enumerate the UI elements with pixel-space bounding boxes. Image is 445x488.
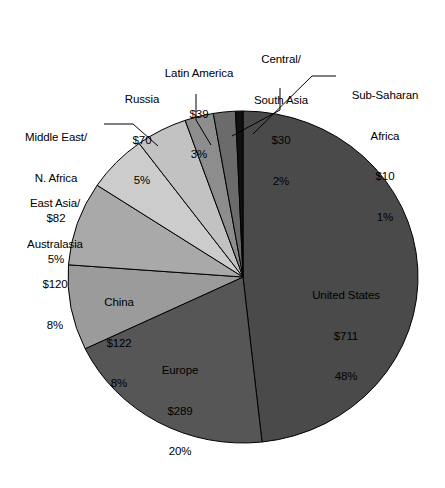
slice-label-middle-east-n-africa: Middle East/ N. Africa $82 5% — [8, 104, 104, 293]
slice-label-line: $30 — [237, 134, 325, 148]
slice-label-line: 8% — [72, 377, 166, 391]
slice-label-line: 5% — [8, 253, 104, 267]
slice-label-line: 20% — [130, 445, 230, 459]
slice-label-line: Central/ — [237, 53, 325, 67]
slice-label-line: N. Africa — [8, 172, 104, 186]
pie-chart-page: United States $711 48% Europe $289 20% C… — [0, 0, 445, 488]
slice-label-line: 2% — [237, 175, 325, 189]
slice-label-line: 48% — [286, 370, 406, 384]
slice-label-line: $711 — [286, 330, 406, 344]
slice-label-central-south-asia: Central/ South Asia $30 2% — [237, 26, 325, 215]
slice-label-united-states: United States $711 48% — [286, 262, 406, 411]
slice-label-line: Middle East/ — [8, 131, 104, 145]
slice-label-line: $39 — [152, 108, 246, 122]
slice-label-line: Sub-Saharan — [333, 89, 437, 103]
slice-label-line: $82 — [8, 212, 104, 226]
slice-label-line: Africa — [333, 130, 437, 144]
slice-label-sub-saharan-africa: Sub-Saharan Africa $10 1% — [333, 62, 437, 251]
slice-label-latin-america: Latin America $39 3% — [152, 40, 246, 189]
slice-label-line: 1% — [333, 211, 437, 225]
slice-label-line: Latin America — [152, 67, 246, 81]
slice-label-line: United States — [286, 289, 406, 303]
slice-label-line: South Asia — [237, 94, 325, 108]
slice-label-line: 3% — [152, 148, 246, 162]
slice-label-line: 8% — [0, 319, 110, 333]
slice-label-line: $10 — [333, 170, 437, 184]
